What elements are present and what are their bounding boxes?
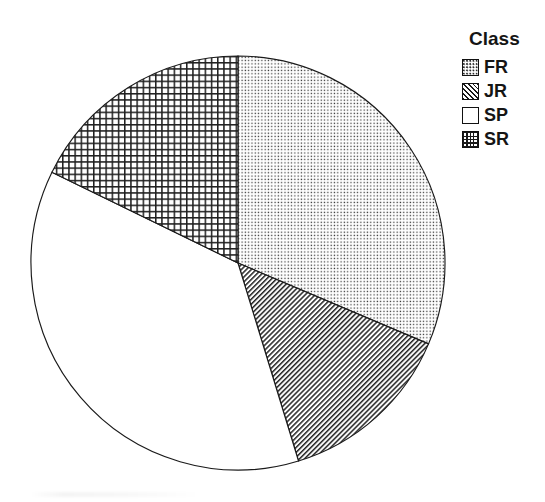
legend-item-sp[interactable]: SP <box>462 104 545 126</box>
legend-item-fr[interactable]: FR <box>462 56 545 78</box>
legend-title: Class <box>469 28 545 50</box>
legend: Class FR JR SP SR <box>462 28 545 152</box>
legend-item-jr[interactable]: JR <box>462 80 545 102</box>
legend-swatch-sr <box>462 131 479 148</box>
legend-label-jr: JR <box>484 82 507 100</box>
legend-swatch-sp <box>462 107 479 124</box>
pie-chart-figure: Class FR JR SP SR <box>0 0 545 502</box>
legend-label-sr: SR <box>484 130 509 148</box>
legend-label-fr: FR <box>484 58 508 76</box>
scan-artifact <box>30 492 200 497</box>
legend-swatch-fr <box>462 59 479 76</box>
pie-slices-group <box>31 56 445 470</box>
legend-item-sr[interactable]: SR <box>462 128 545 150</box>
legend-label-sp: SP <box>484 106 508 124</box>
legend-swatch-jr <box>462 83 479 100</box>
